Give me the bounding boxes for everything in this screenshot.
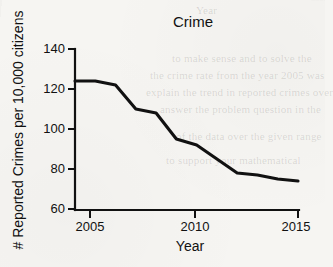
x-tick-label: 2010 <box>181 219 210 234</box>
chart-title: Crime <box>173 13 213 30</box>
x-tick-label: 2005 <box>76 219 105 234</box>
x-axis-title: Year <box>176 238 205 254</box>
y-tick-label: 80 <box>51 161 65 176</box>
x-axis: 2005 2010 2015 <box>75 210 310 234</box>
y-axis: 140 120 100 80 60 <box>43 41 75 216</box>
y-axis-title: # Reported Crimes per 10,000 citizens <box>10 11 26 250</box>
y-tick-label: 60 <box>51 201 65 216</box>
x-tick-label: 2015 <box>282 219 311 234</box>
y-tick-label: 120 <box>43 81 65 96</box>
data-series-line <box>75 81 298 181</box>
y-tick-label: 140 <box>43 41 65 56</box>
y-tick-label: 100 <box>43 121 65 136</box>
